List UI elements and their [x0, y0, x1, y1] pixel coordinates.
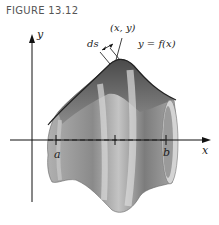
b-label: b	[163, 146, 170, 159]
surface-body	[47, 59, 178, 212]
ds-label: ds	[87, 38, 99, 49]
a-label: a	[54, 148, 61, 161]
point-pointer	[116, 38, 122, 60]
y-axis-label: y	[37, 28, 43, 41]
x-axis-label: x	[202, 144, 208, 157]
point-label: (x, y)	[110, 22, 135, 33]
surface-of-revolution-diagram	[0, 0, 219, 225]
curve-label: y = f(x)	[138, 38, 176, 49]
x-axis-arrow-icon	[202, 137, 211, 143]
y-axis-arrow-icon	[29, 34, 35, 43]
